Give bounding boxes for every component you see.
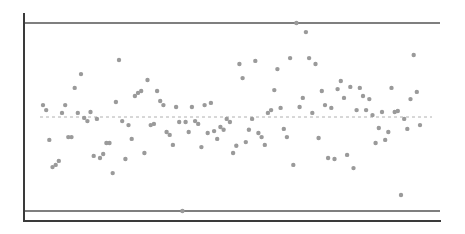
data-point: [54, 163, 58, 167]
data-point: [310, 111, 314, 115]
control-chart: [0, 0, 465, 234]
data-point: [358, 86, 362, 90]
data-point: [383, 138, 387, 142]
data-point: [402, 117, 406, 121]
data-point: [307, 56, 311, 60]
data-point: [225, 117, 229, 121]
data-point: [44, 108, 48, 112]
data-point: [259, 135, 263, 139]
data-point: [399, 193, 403, 197]
data-point: [183, 120, 187, 124]
data-point: [190, 105, 194, 109]
data-point: [123, 157, 127, 161]
data-point: [412, 53, 416, 57]
data-point: [142, 151, 146, 155]
data-point: [348, 85, 352, 89]
data-point: [335, 87, 339, 91]
data-point: [126, 123, 130, 127]
data-point: [342, 96, 346, 100]
data-point: [215, 137, 219, 141]
data-point: [168, 133, 172, 137]
data-point: [139, 89, 143, 93]
data-point: [364, 108, 368, 112]
data-point: [237, 62, 241, 66]
data-point: [418, 123, 422, 127]
data-point: [278, 106, 282, 110]
data-point: [111, 171, 115, 175]
data-point: [60, 111, 64, 115]
data-point: [221, 128, 225, 132]
data-point: [209, 101, 213, 105]
data-point: [396, 109, 400, 113]
data-point: [294, 21, 298, 25]
data-point: [180, 209, 184, 213]
data-point: [107, 141, 111, 145]
data-point: [117, 58, 121, 62]
data-point: [92, 154, 96, 158]
data-point: [171, 143, 175, 147]
data-point: [158, 99, 162, 103]
data-point: [373, 141, 377, 145]
data-point: [228, 120, 232, 124]
data-point: [351, 166, 355, 170]
data-point: [133, 94, 137, 98]
data-point: [69, 135, 73, 139]
data-point: [57, 159, 61, 163]
data-point: [202, 103, 206, 107]
data-point: [408, 97, 412, 101]
data-point: [152, 122, 156, 126]
data-point: [120, 119, 124, 123]
data-point: [240, 76, 244, 80]
data-point: [291, 163, 295, 167]
data-point: [196, 122, 200, 126]
data-point: [76, 111, 80, 115]
data-point: [377, 126, 381, 130]
data-point: [79, 72, 83, 76]
data-point: [288, 56, 292, 60]
data-point: [282, 127, 286, 131]
data-point: [47, 138, 51, 142]
data-point: [174, 105, 178, 109]
data-point: [244, 140, 248, 144]
data-point: [234, 144, 238, 148]
data-point: [161, 103, 165, 107]
data-point: [247, 128, 251, 132]
data-point: [415, 90, 419, 94]
data-point: [155, 89, 159, 93]
data-point: [231, 151, 235, 155]
data-point: [145, 78, 149, 82]
data-point: [367, 97, 371, 101]
data-point: [339, 79, 343, 83]
data-point: [206, 131, 210, 135]
data-point: [199, 145, 203, 149]
data-point: [88, 110, 92, 114]
data-point: [405, 127, 409, 131]
data-point: [297, 105, 301, 109]
data-point: [304, 30, 308, 34]
data-point: [114, 100, 118, 104]
data-point: [323, 103, 327, 107]
data-point: [41, 103, 45, 107]
data-point: [212, 129, 216, 133]
data-point: [253, 59, 257, 63]
data-point: [275, 67, 279, 71]
data-point: [316, 136, 320, 140]
data-point: [82, 116, 86, 120]
data-point: [95, 117, 99, 121]
data-point: [386, 130, 390, 134]
data-point: [313, 62, 317, 66]
data-point: [345, 153, 349, 157]
data-point: [269, 108, 273, 112]
data-point: [320, 89, 324, 93]
data-point: [332, 157, 336, 161]
data-point: [354, 108, 358, 112]
data-point: [380, 110, 384, 114]
data-point: [101, 152, 105, 156]
data-point: [73, 86, 77, 90]
data-point: [285, 135, 289, 139]
data-point: [329, 106, 333, 110]
data-point: [256, 131, 260, 135]
data-point: [250, 117, 254, 121]
data-point: [85, 119, 89, 123]
data-point: [263, 143, 267, 147]
